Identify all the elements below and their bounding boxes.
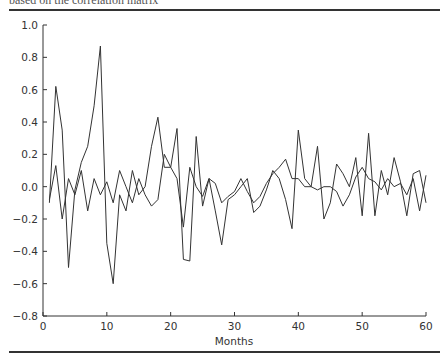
x-tick-label: 50 [355, 320, 368, 332]
x-tick-label: 20 [164, 320, 177, 332]
y-tick-label: 0.6 [21, 84, 38, 96]
y-tick-label: 0.8 [21, 51, 38, 63]
line-chart: −0.8−0.6−0.4−0.20.00.20.40.60.81.0010203… [0, 0, 447, 358]
y-tick-label: 0.2 [21, 148, 38, 160]
chart-axes: −0.8−0.6−0.4−0.20.00.20.40.60.81.0010203… [13, 19, 433, 332]
y-tick-label: −0.2 [13, 213, 39, 225]
y-tick-label: 0.4 [21, 116, 38, 128]
y-tick-label: 1.0 [21, 19, 38, 31]
x-tick-label: 60 [419, 320, 432, 332]
y-tick-label: −0.4 [13, 245, 39, 257]
x-tick-label: 0 [40, 320, 47, 332]
y-tick-label: −0.8 [13, 310, 39, 322]
x-tick-label: 10 [100, 320, 113, 332]
y-tick-label: −0.6 [13, 278, 39, 290]
y-tick-label: 0.0 [21, 181, 38, 193]
series-line-a [49, 46, 426, 284]
chart-series [49, 46, 426, 284]
x-axis-label: Months [215, 335, 253, 347]
x-tick-label: 40 [292, 320, 305, 332]
x-tick-label: 30 [228, 320, 241, 332]
